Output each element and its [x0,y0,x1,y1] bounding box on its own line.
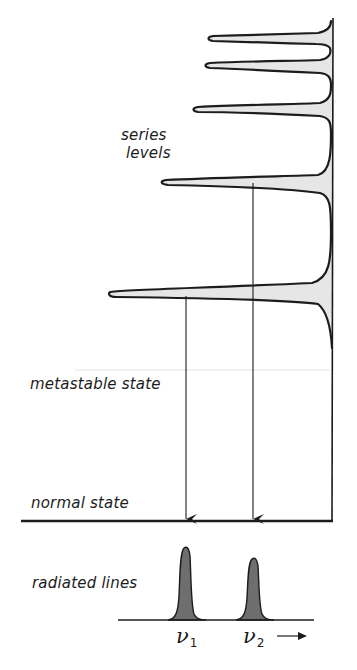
nu2-label: ν2 [243,626,264,649]
nu1-subscript: 1 [190,636,198,650]
spectral-peak-nu2 [236,558,274,620]
diagram-canvas [0,0,357,670]
series-levels-label-line1: series [121,128,167,143]
nu2-symbol: ν [243,624,256,648]
series-levels-label-line2: levels [126,146,171,161]
normal-state-label: normal state [31,496,129,511]
nu1-symbol: ν [176,624,189,648]
spectral-peak-nu1 [168,547,206,620]
radiated-lines-label: radiated lines [32,576,137,591]
nu2-subscript: 2 [257,636,265,650]
radiated-lines-spectrum [118,547,314,620]
nu1-label: ν1 [176,626,197,649]
frequency-arrow-icon [277,632,307,640]
energy-level-diagram: series levels metastable state normal st… [0,0,357,670]
metastable-state-label: metastable state [30,377,161,392]
energy-axis-line [332,18,333,521]
series-levels-envelope [109,18,333,348]
